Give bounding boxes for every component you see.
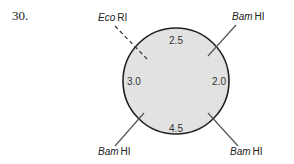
segment-label-top: 2.5	[169, 35, 183, 46]
segment-label-bottom: 4.5	[169, 123, 183, 134]
enzyme-rest: HI	[253, 146, 263, 157]
site-line-bamhi-bottom-left	[115, 113, 144, 146]
site-label-bamhi-bottom-left: BamHI	[98, 146, 131, 157]
site-line-bamhi-top-right	[208, 25, 236, 56]
site-label-ecori: EcoRI	[98, 12, 127, 23]
segment-label-left: 3.0	[127, 76, 141, 87]
enzyme-rest: HI	[255, 11, 265, 22]
site-line-bamhi-bottom-right	[208, 113, 238, 146]
restriction-map: 2.5 2.0 4.5 3.0 EcoRI BamHI BamHI BamHI	[0, 0, 294, 164]
enzyme-italic: Bam	[230, 146, 251, 157]
enzyme-rest: RI	[117, 12, 127, 23]
site-label-bamhi-bottom-right: BamHI	[230, 146, 263, 157]
segment-label-right: 2.0	[212, 76, 226, 87]
enzyme-italic: Bam	[98, 146, 119, 157]
enzyme-rest: HI	[121, 146, 131, 157]
enzyme-italic: Eco	[98, 12, 116, 23]
site-label-bamhi-top-right: BamHI	[232, 11, 265, 22]
enzyme-italic: Bam	[232, 11, 253, 22]
